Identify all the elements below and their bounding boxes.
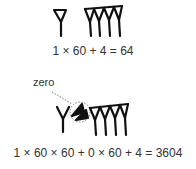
wedge-sixty-squared-icon <box>57 107 69 132</box>
equation-one: 1 × 60 + 4 = 64 <box>38 44 148 58</box>
zero-label: zero <box>33 76 54 88</box>
equation-two: 1 × 60 × 60 + 0 × 60 + 4 = 3604 <box>4 146 192 160</box>
four-units-icon-2 <box>90 104 128 135</box>
wedge-sixty-icon <box>54 10 66 36</box>
four-units-icon <box>85 6 122 36</box>
cuneiform-diagram <box>0 0 196 169</box>
zero-placeholder-icon <box>72 104 88 120</box>
zero-leader-line <box>52 92 72 104</box>
